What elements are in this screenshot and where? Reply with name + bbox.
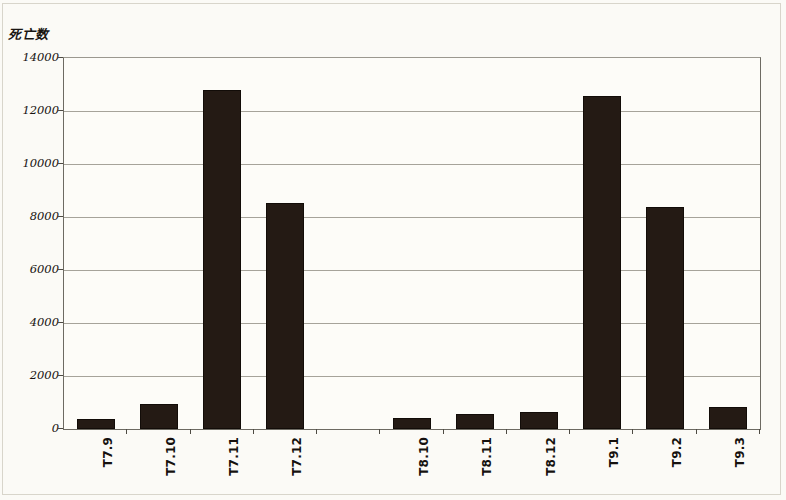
y-tick-label: 12000 bbox=[5, 103, 59, 117]
bar bbox=[520, 412, 558, 429]
bar bbox=[456, 414, 494, 429]
bar bbox=[709, 407, 747, 429]
x-tick-label: T7.11 bbox=[227, 437, 241, 476]
chart-page: 死亡数 14000120001000080006000400020000 T7.… bbox=[0, 0, 786, 500]
y-tick-label: 6000 bbox=[5, 262, 59, 276]
bar bbox=[646, 207, 684, 429]
x-tick-label: T9.3 bbox=[733, 437, 747, 467]
bar bbox=[583, 96, 621, 429]
bar bbox=[77, 419, 115, 429]
y-axis-title: 死亡数 bbox=[8, 24, 49, 43]
y-tick-label: 2000 bbox=[5, 368, 59, 382]
y-tick-label: 8000 bbox=[5, 209, 59, 223]
x-tick-label: T8.12 bbox=[544, 437, 558, 476]
bar bbox=[266, 203, 304, 429]
x-tick-label: T7.9 bbox=[101, 437, 115, 467]
x-tick-label: T8.11 bbox=[480, 437, 494, 476]
y-axis: 14000120001000080006000400020000 bbox=[0, 57, 59, 428]
bar bbox=[140, 404, 178, 429]
gridline bbox=[64, 111, 760, 112]
gridline bbox=[64, 164, 760, 165]
y-tick-label: 10000 bbox=[5, 156, 59, 170]
y-tick-label: 0 bbox=[5, 421, 59, 435]
x-tick-label: T9.2 bbox=[670, 437, 684, 467]
x-tick-label: T9.1 bbox=[607, 437, 621, 467]
x-tick-label: T7.10 bbox=[164, 437, 178, 476]
bar bbox=[393, 418, 431, 429]
plot-area bbox=[63, 57, 761, 430]
bar bbox=[203, 90, 241, 429]
y-tick-label: 4000 bbox=[5, 315, 59, 329]
x-tick-label: T8.10 bbox=[417, 437, 431, 476]
y-tick-label: 14000 bbox=[5, 50, 59, 64]
x-tick-label: T7.12 bbox=[290, 437, 304, 476]
